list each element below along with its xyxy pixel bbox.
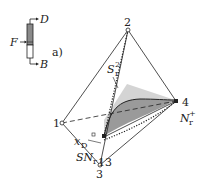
label-vertex-2: 2: [124, 16, 131, 29]
node-13: [102, 134, 106, 138]
vertex-1: [60, 121, 64, 125]
bottoms-arrow-icon: [30, 58, 36, 64]
label-N-sub: r: [189, 118, 193, 127]
distillate-arrow-icon: [30, 19, 36, 24]
label-vertex-4: 4: [182, 96, 189, 109]
column-schematic: [20, 18, 39, 66]
label-x-main: x: [74, 135, 81, 148]
label-S-sub: r: [115, 69, 119, 78]
label-vertex-3: 3: [96, 168, 103, 181]
label-node-13: 13: [98, 156, 112, 169]
xd-pointer: [88, 140, 101, 143]
label-F: F: [9, 36, 18, 49]
xd-marker: [92, 133, 95, 136]
panel-label: a): [52, 46, 63, 59]
label-B: B: [39, 58, 48, 71]
label-SN-main: SN: [76, 151, 94, 164]
label-D: D: [39, 13, 49, 26]
vertex-4: [174, 99, 178, 103]
label-vertex-1: 1: [53, 117, 60, 130]
label-N-sup: +: [189, 109, 196, 118]
label-S-main: S: [107, 63, 115, 76]
diagram-canvas: D F B a) 2 1 3 4 S 2 r N +: [0, 0, 217, 195]
label-x-sub: D: [81, 141, 87, 150]
label-S-sup: 2: [115, 60, 120, 69]
column-lower-section: [27, 45, 33, 58]
label-SN-sub: r: [93, 157, 97, 166]
